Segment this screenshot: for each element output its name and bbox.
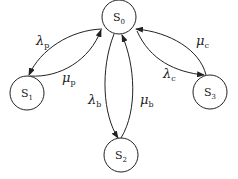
node-s0: S0 [102, 0, 136, 34]
node-s2: S2 [104, 138, 138, 172]
state-diagram: S0 S1 S3 S2 λp μp λb μb λc μc [0, 0, 238, 179]
label-lambda-b: λb [87, 92, 101, 109]
node-s1: S1 [10, 76, 44, 110]
node-s3: S3 [193, 75, 227, 109]
label-lambda-c: λc [162, 66, 176, 83]
label-mu-c: μc [196, 33, 209, 50]
edge-s0-s2 [105, 34, 118, 138]
edge-s2-s0 [121, 35, 133, 138]
label-lambda-p: λp [35, 33, 49, 50]
label-mu-p: μp [62, 70, 76, 87]
label-mu-b: μb [140, 92, 154, 109]
